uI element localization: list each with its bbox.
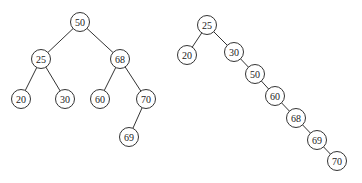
tree-node-69: 69 (308, 131, 327, 150)
tree-node-69: 69 (120, 128, 139, 147)
tree-node-68: 68 (287, 109, 306, 128)
node-label: 25 (202, 20, 212, 31)
tree-node-68: 68 (111, 50, 130, 69)
tree-node-30: 30 (225, 43, 244, 62)
node-label: 25 (36, 54, 46, 65)
node-label: 60 (95, 94, 105, 105)
tree-node-20: 20 (178, 46, 197, 65)
tree-node-70: 70 (137, 90, 156, 109)
node-label: 20 (16, 94, 26, 105)
tree-node-50: 50 (246, 65, 265, 84)
node-label: 68 (291, 113, 301, 124)
tree-node-50: 50 (71, 13, 90, 32)
node-label: 20 (182, 50, 192, 61)
bst-diagram: 50256820306070692520305060686970 (0, 0, 362, 183)
node-label: 30 (229, 47, 239, 58)
node-label: 30 (60, 94, 70, 105)
tree-node-25: 25 (198, 16, 217, 35)
tree-node-70: 70 (328, 152, 347, 171)
node-label: 50 (250, 69, 260, 80)
tree-nodes: 50256820306070692520305060686970 (12, 13, 347, 171)
node-label: 70 (332, 156, 342, 167)
tree-node-25: 25 (32, 50, 51, 69)
tree-node-60: 60 (91, 90, 110, 109)
node-label: 68 (115, 54, 125, 65)
node-label: 69 (312, 135, 322, 146)
node-label: 70 (141, 94, 151, 105)
tree-node-20: 20 (12, 90, 31, 109)
node-label: 50 (75, 17, 85, 28)
node-label: 69 (124, 132, 134, 143)
tree-node-60: 60 (266, 87, 285, 106)
node-label: 60 (270, 91, 280, 102)
tree-node-30: 30 (56, 90, 75, 109)
